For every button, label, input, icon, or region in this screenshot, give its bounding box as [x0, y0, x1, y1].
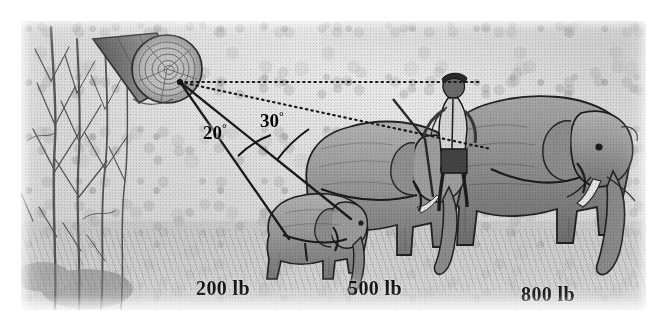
illustration-plate: 20° 30° 200 lb 500 lb 800 lb — [21, 21, 646, 310]
scan-banding — [21, 21, 646, 310]
figure-canvas: 20° 30° 200 lb 500 lb 800 lb — [0, 0, 666, 332]
